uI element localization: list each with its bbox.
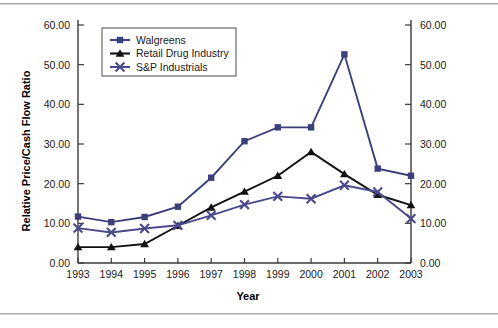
y-tick-label-left: 20.00 <box>44 178 70 190</box>
x-tick-label: 1996 <box>166 268 190 280</box>
series-marker <box>375 165 381 171</box>
top-divider-rule <box>0 3 498 5</box>
series-marker <box>308 124 314 130</box>
series-marker <box>341 51 347 57</box>
legend-marker <box>117 37 123 43</box>
y-tick-label-right: 0.00 <box>420 257 441 269</box>
series-marker <box>275 124 281 130</box>
series-marker <box>175 203 181 209</box>
x-tick-label: 2000 <box>299 268 323 280</box>
x-tick-label: 2002 <box>366 268 390 280</box>
x-tick-label: 1999 <box>266 268 290 280</box>
x-tick-label: 1995 <box>133 268 157 280</box>
chart-legend: WalgreensRetail Drug IndustryS&P Industr… <box>102 28 236 76</box>
y-tick-label-left: 10.00 <box>44 217 70 229</box>
series-marker <box>75 213 81 219</box>
series-walgreens <box>75 51 414 225</box>
x-axis: 1993199419951996199719981999200020012002… <box>66 258 423 280</box>
series-line <box>78 152 411 247</box>
x-tick-label: 1998 <box>233 268 257 280</box>
chart-area: Relative Price/Cash Flow Ratio 0.0010.00… <box>0 8 498 308</box>
y-tick-label-right: 40.00 <box>420 98 446 110</box>
series-marker <box>408 173 414 179</box>
x-tick-label: 1997 <box>200 268 224 280</box>
x-axis-title: Year <box>236 290 260 302</box>
figure-canvas: Relative Price/Cash Flow Ratio 0.0010.00… <box>0 0 498 328</box>
bottom-divider-rule <box>0 313 498 315</box>
series-marker <box>208 175 214 181</box>
y-tick-label-right: 10.00 <box>420 217 446 229</box>
line-chart: Relative Price/Cash Flow Ratio 0.0010.00… <box>0 8 498 308</box>
legend-label: Walgreens <box>136 34 186 46</box>
data-series-layer <box>74 51 416 250</box>
legend-label: S&P Industrials <box>136 61 208 73</box>
x-tick-label: 2001 <box>333 268 357 280</box>
y-tick-label-right: 20.00 <box>420 178 446 190</box>
y-tick-label-left: 60.00 <box>44 19 70 31</box>
series-marker <box>108 219 114 225</box>
y-axis-title: Relative Price/Cash Flow Ratio <box>20 70 32 231</box>
y-tick-label-left: 50.00 <box>44 59 70 71</box>
x-tick-label: 2003 <box>399 268 423 280</box>
y-tick-label-right: 30.00 <box>420 138 446 150</box>
y-tick-label-right: 60.00 <box>420 19 446 31</box>
legend-label: Retail Drug Industry <box>136 47 230 59</box>
y-tick-label-right: 50.00 <box>420 59 446 71</box>
series-marker <box>307 148 316 155</box>
x-tick-label: 1993 <box>66 268 90 280</box>
y-tick-label-left: 30.00 <box>44 138 70 150</box>
y-tick-label-left: 40.00 <box>44 98 70 110</box>
series-marker <box>141 214 147 220</box>
x-tick-label: 1994 <box>100 268 124 280</box>
series-marker <box>241 138 247 144</box>
series-retail-drug-industry <box>74 148 416 251</box>
